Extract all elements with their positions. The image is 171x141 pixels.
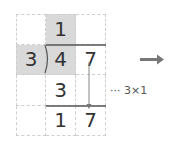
division-bracket [45, 45, 48, 73]
right-arrow-icon [140, 55, 164, 65]
division-lines [0, 0, 171, 141]
down-arrow-icon [87, 62, 92, 109]
multiplication-annotation: ··· 3×1 [110, 84, 147, 97]
